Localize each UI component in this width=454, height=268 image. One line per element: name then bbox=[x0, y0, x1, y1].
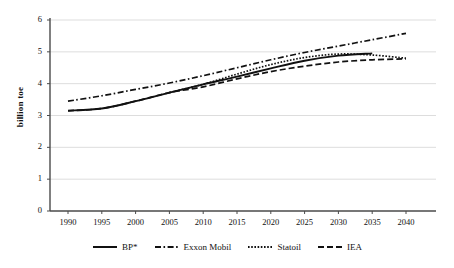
legend-label: IEA bbox=[347, 242, 362, 252]
y-tick-label: 3 bbox=[24, 110, 42, 120]
legend-swatch-solid bbox=[92, 242, 118, 252]
gridlines bbox=[50, 20, 436, 179]
y-tick-label: 6 bbox=[24, 14, 42, 24]
series-line-exxon-mobil bbox=[68, 33, 406, 101]
y-tick-label: 0 bbox=[24, 205, 42, 215]
legend-swatch-dashed bbox=[317, 242, 343, 252]
legend-label: Exxon Mobil bbox=[184, 242, 232, 252]
legend-label: Statoil bbox=[277, 242, 301, 252]
series-line-iea bbox=[68, 59, 406, 111]
y-tick-label: 4 bbox=[24, 78, 42, 88]
chart-container: billion toe 0123456 19901995200020052010… bbox=[0, 0, 454, 268]
legend-item-bp[interactable]: BP* bbox=[92, 242, 138, 252]
legend-label: BP* bbox=[122, 242, 138, 252]
axis-lines bbox=[50, 18, 436, 211]
series-lines bbox=[68, 33, 406, 110]
chart-legend: BP*Exxon MobilStatoilIEA bbox=[0, 236, 454, 258]
legend-swatch-dotted bbox=[247, 242, 273, 252]
y-tick-label: 5 bbox=[24, 46, 42, 56]
chart-plot-area bbox=[0, 0, 454, 268]
y-tick-label: 2 bbox=[24, 141, 42, 151]
legend-item-exxon-mobil[interactable]: Exxon Mobil bbox=[154, 242, 232, 252]
legend-item-iea[interactable]: IEA bbox=[317, 242, 362, 252]
series-line-bp bbox=[68, 53, 372, 110]
x-tick-label: 2040 bbox=[386, 217, 426, 227]
y-tick-label: 1 bbox=[24, 173, 42, 183]
legend-swatch-dash-dot bbox=[154, 242, 180, 252]
legend-item-statoil[interactable]: Statoil bbox=[247, 242, 301, 252]
axis-ticks bbox=[47, 20, 406, 214]
